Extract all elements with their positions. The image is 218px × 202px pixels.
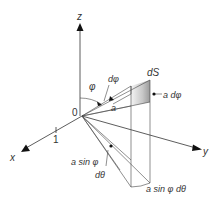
x-tick-label: 1 (53, 134, 59, 145)
phi-label: φ (89, 81, 96, 92)
radial-lines-lower (82, 116, 150, 187)
origin-label: 0 (72, 107, 78, 118)
x-arrow-icon (21, 145, 30, 153)
x-axis (21, 116, 82, 152)
phi-angle (80, 85, 114, 106)
dS-label: dS (147, 67, 160, 78)
a-dphi-label: a dφ (163, 90, 182, 100)
a-sin-phi-d-theta-label: a sin φ dθ (146, 184, 186, 194)
d-theta-label: dθ (95, 170, 105, 180)
z-axis-label: z (76, 11, 82, 22)
y-arrow-icon (192, 145, 202, 152)
a-dphi-pointer (152, 92, 162, 95)
radius-label: a (111, 103, 116, 113)
spherical-coordinates-diagram: z x y 0 1 φ dφ a dS a dφ a sin φ dθ a si… (0, 0, 218, 202)
d-phi-label: dφ (108, 74, 119, 84)
phi-arrow-icon (97, 102, 102, 107)
surface-element-dS (131, 80, 150, 106)
y-axis-label: y (202, 146, 209, 157)
x-axis-label: x (9, 152, 16, 163)
z-axis (77, 23, 84, 116)
a-sin-phi-label: a sin φ (71, 157, 99, 167)
z-arrow-icon (77, 23, 84, 31)
